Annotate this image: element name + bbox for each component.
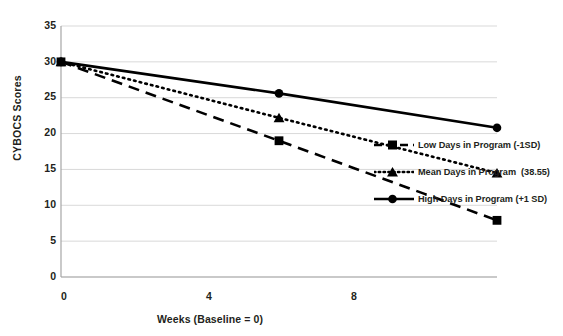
legend-item-mean: Mean Days in Program (38.55) <box>374 158 562 185</box>
legend-label-low: Low Days in Program (-1SD) <box>418 140 540 150</box>
data-point-square <box>275 136 284 145</box>
data-point-circle <box>275 89 284 98</box>
chart-legend: Low Days in Program (-1SD) Mean Days in … <box>374 131 562 212</box>
legend-key-dashed-square <box>374 138 414 152</box>
legend-label-high: High Days in Program (+1 SD) <box>418 194 547 204</box>
data-point-square <box>493 216 502 225</box>
legend-key-solid-circle <box>374 192 414 206</box>
legend-label-mean: Mean Days in Program (38.55) <box>418 167 550 177</box>
legend-item-low: Low Days in Program (-1SD) <box>374 131 562 158</box>
legend-key-dotted-triangle <box>374 165 414 179</box>
chart-figure: CYBOCS Scores 35 30 25 20 15 10 5 0 0 4 … <box>0 0 563 336</box>
legend-item-high: High Days in Program (+1 SD) <box>374 185 562 212</box>
data-point-circle <box>57 58 66 67</box>
